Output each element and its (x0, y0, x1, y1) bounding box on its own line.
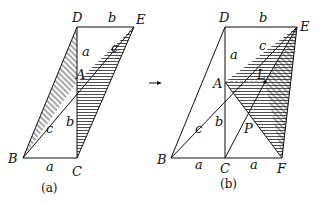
side-ae-label: c (111, 40, 119, 55)
point-b-label: B (7, 151, 18, 166)
side-ba-label: c (46, 121, 54, 136)
point-a-label: A (75, 67, 85, 82)
point-p-label: P (243, 121, 253, 136)
transform-arrow (149, 81, 162, 85)
side-ac-label: b (66, 114, 74, 129)
side-ba-label: c (195, 121, 203, 136)
side-bc-label: a (195, 157, 203, 172)
point-c-label: C (220, 161, 230, 176)
point-l-label: L (256, 67, 266, 82)
point-f-label: F (276, 161, 287, 176)
pythagorean-proof-diagram: D E A B C b a c b c a (a) D E A B C (0, 0, 321, 204)
point-e-label: E (299, 19, 310, 34)
side-da-label: a (82, 44, 90, 59)
point-c-label: C (72, 164, 82, 179)
point-b-label: B (156, 152, 167, 167)
side-ae-label: c (259, 38, 267, 53)
point-e-label: E (135, 12, 146, 27)
side-de-label: b (108, 10, 116, 25)
figure-b: D E A B C F L P b a c b c a a (b) (156, 10, 310, 191)
side-da-label: a (230, 47, 238, 62)
side-bc-label: a (46, 159, 54, 174)
point-a-label: A (212, 76, 222, 91)
side-de-label: b (259, 10, 267, 25)
side-cf-label: a (250, 157, 258, 172)
point-d-label: D (218, 10, 230, 25)
point-d-label: D (71, 10, 83, 25)
side-ac-label: b (215, 114, 223, 129)
caption-b: (b) (220, 177, 237, 191)
caption-a: (a) (41, 181, 58, 195)
figure-a: D E A B C b a c b c a (a) (7, 10, 146, 195)
